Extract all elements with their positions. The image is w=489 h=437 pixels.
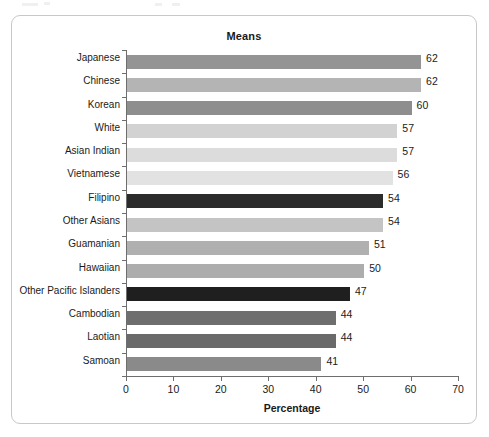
bar-row: White57 xyxy=(126,120,458,143)
bar xyxy=(127,241,369,255)
bar-value-label: 62 xyxy=(426,75,438,87)
scan-artifact xyxy=(44,2,50,5)
x-axis-tick-label: 70 xyxy=(452,383,464,395)
category-label: White xyxy=(0,122,120,133)
bar-row: Other Asians54 xyxy=(126,213,458,236)
category-label: Vietnamese xyxy=(0,168,120,179)
y-axis-tick xyxy=(122,97,126,98)
bar-value-label: 44 xyxy=(341,331,353,343)
x-axis-title: Percentage xyxy=(126,402,458,414)
bar-value-label: 50 xyxy=(369,262,381,274)
x-axis-tick xyxy=(221,376,222,381)
category-label: Guamanian xyxy=(0,238,120,249)
y-axis-tick xyxy=(122,306,126,307)
y-axis-tick xyxy=(122,260,126,261)
bar xyxy=(127,171,393,185)
bar xyxy=(127,218,383,232)
bar-row: Korean60 xyxy=(126,97,458,120)
bar-value-label: 54 xyxy=(388,192,400,204)
bar-value-label: 44 xyxy=(341,308,353,320)
category-label: Samoan xyxy=(0,355,120,366)
bar-row: Laotian44 xyxy=(126,329,458,352)
category-label: Filipino xyxy=(0,192,120,203)
bar-row: Hawaiian50 xyxy=(126,260,458,283)
x-axis-tick xyxy=(458,376,459,381)
category-label: Other Asians xyxy=(0,215,120,226)
x-axis-tick-label: 40 xyxy=(310,383,322,395)
bar-chart-plot-area: Japanese62Chinese62Korean60White57Asian … xyxy=(126,50,458,376)
y-axis-tick xyxy=(122,73,126,74)
bar xyxy=(127,264,364,278)
bar-value-label: 60 xyxy=(417,99,429,111)
bar xyxy=(127,124,397,138)
bar xyxy=(127,55,421,69)
y-axis-tick xyxy=(122,283,126,284)
category-label: Asian Indian xyxy=(0,145,120,156)
bar xyxy=(127,287,350,301)
x-axis-tick-label: 30 xyxy=(262,383,274,395)
category-label: Japanese xyxy=(0,52,120,63)
x-axis-tick-label: 50 xyxy=(357,383,369,395)
bar-value-label: 54 xyxy=(388,215,400,227)
category-label: Other Pacific Islanders xyxy=(0,285,120,296)
x-axis-tick-label: 60 xyxy=(405,383,417,395)
bar-value-label: 56 xyxy=(398,168,410,180)
y-axis-tick xyxy=(122,166,126,167)
category-label: Korean xyxy=(0,99,120,110)
bar-row: Filipino54 xyxy=(126,190,458,213)
scan-artifact xyxy=(22,3,38,6)
x-axis-tick-label: 0 xyxy=(123,383,129,395)
x-axis-tick xyxy=(316,376,317,381)
y-axis-tick xyxy=(122,120,126,121)
bar-value-label: 57 xyxy=(402,145,414,157)
bar xyxy=(127,101,412,115)
bar xyxy=(127,148,397,162)
y-axis-tick xyxy=(122,236,126,237)
category-label: Laotian xyxy=(0,331,120,342)
x-axis-tick-label: 10 xyxy=(168,383,180,395)
bar xyxy=(127,78,421,92)
scan-artifact xyxy=(155,3,162,6)
y-axis-tick xyxy=(122,143,126,144)
x-axis-tick xyxy=(173,376,174,381)
bar xyxy=(127,334,336,348)
bar-value-label: 51 xyxy=(374,238,386,250)
bar-row: Vietnamese56 xyxy=(126,166,458,189)
y-axis-tick xyxy=(122,329,126,330)
bar-row: Japanese62 xyxy=(126,50,458,73)
x-axis-tick xyxy=(126,376,127,381)
bar-row: Asian Indian57 xyxy=(126,143,458,166)
category-label: Cambodian xyxy=(0,308,120,319)
y-axis-tick xyxy=(122,213,126,214)
x-axis-tick xyxy=(268,376,269,381)
y-axis-tick xyxy=(122,50,126,51)
scan-artifact xyxy=(172,3,180,6)
bar-row: Chinese62 xyxy=(126,73,458,96)
bar-row: Cambodian44 xyxy=(126,306,458,329)
bar xyxy=(127,311,336,325)
bar-row: Other Pacific Islanders47 xyxy=(126,283,458,306)
x-axis-tick xyxy=(363,376,364,381)
bar-value-label: 57 xyxy=(402,122,414,134)
category-label: Chinese xyxy=(0,75,120,86)
bar-row: Guamanian51 xyxy=(126,236,458,259)
bar-value-label: 41 xyxy=(326,355,338,367)
chart-frame: Means Japanese62Chinese62Korean60White57… xyxy=(11,15,477,424)
category-label: Hawaiian xyxy=(0,262,120,273)
bar-value-label: 47 xyxy=(355,285,367,297)
bar-row: Samoan41 xyxy=(126,353,458,376)
y-axis-tick xyxy=(122,190,126,191)
x-axis-tick-label: 20 xyxy=(215,383,227,395)
bar xyxy=(127,194,383,208)
x-axis-line xyxy=(126,376,458,377)
bar xyxy=(127,357,321,371)
y-axis-tick xyxy=(122,353,126,354)
x-axis-tick xyxy=(411,376,412,381)
bar-value-label: 62 xyxy=(426,52,438,64)
chart-title: Means xyxy=(12,30,476,42)
